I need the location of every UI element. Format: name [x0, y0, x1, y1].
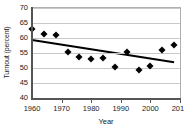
- x-axis-tick-label: 1980: [83, 104, 100, 113]
- x-axis-tick-mark: [91, 99, 92, 103]
- gridline-horizontal: [32, 23, 180, 24]
- x-axis-tick-label: 2000: [142, 104, 159, 113]
- gridline-horizontal: [32, 8, 180, 9]
- gridline-horizontal: [32, 68, 180, 69]
- y-axis-title: Turnout (percent): [0, 0, 12, 104]
- x-axis-tick-mark: [62, 99, 63, 103]
- y-axis-tick-label: 65: [20, 19, 28, 27]
- x-axis-tick-mark: [180, 99, 181, 103]
- y-axis-title-text: Turnout (percent): [3, 26, 10, 78]
- y-axis-tick-label: 45: [20, 79, 28, 87]
- gridline-horizontal: [32, 83, 180, 84]
- chart-figure: Turnout (percent) 40455055606570 Year 19…: [0, 0, 184, 131]
- y-axis-tick-label: 60: [20, 34, 28, 42]
- y-axis-tick-labels: 40455055606570: [12, 0, 30, 104]
- y-axis-tick-label: 70: [20, 4, 28, 12]
- plot-area: [31, 7, 181, 99]
- y-axis-line: [31, 7, 33, 99]
- y-axis-tick-label: 40: [20, 94, 28, 102]
- gridline-horizontal: [32, 53, 180, 54]
- gridline-horizontal: [32, 38, 180, 39]
- x-axis-line: [31, 98, 181, 100]
- x-axis-title: Year: [31, 117, 181, 126]
- x-axis-tick-mark: [150, 99, 151, 103]
- x-axis-tick-label: 2010: [172, 104, 184, 113]
- x-axis-tick-mark: [121, 99, 122, 103]
- y-axis-tick-label: 50: [20, 64, 28, 72]
- x-axis-tick-label: 1960: [24, 104, 41, 113]
- x-axis-tick-label: 1970: [53, 104, 70, 113]
- y-axis-tick-label: 55: [20, 49, 28, 57]
- plot-inner: [32, 8, 180, 98]
- x-axis-tick-label: 1990: [112, 104, 129, 113]
